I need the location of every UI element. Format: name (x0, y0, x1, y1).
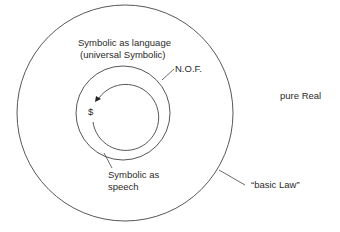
label-nof: N.O.F. (175, 63, 202, 74)
label-universal-symbolic: (universal Symbolic) (80, 49, 166, 60)
label-symbolic-language: Symbolic as language (78, 37, 171, 48)
nof-leader (162, 69, 174, 80)
inner-arc (93, 84, 159, 150)
label-speech-line2: speech (108, 181, 139, 192)
label-barred-subject: $ (88, 106, 93, 117)
basic-law-leader (219, 170, 245, 185)
diagram-canvas (0, 0, 340, 232)
label-pure-real: pure Real (280, 90, 321, 101)
speech-leader (104, 153, 112, 168)
label-speech-line1: Symbolic as (108, 169, 159, 180)
label-basic-law: “basic Law” (251, 179, 300, 190)
